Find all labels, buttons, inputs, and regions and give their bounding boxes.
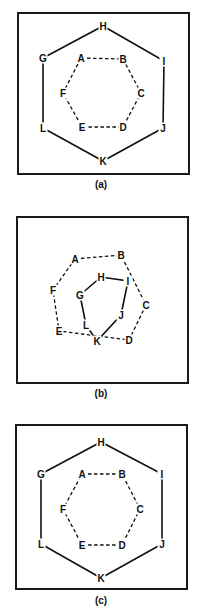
vertex-label-b: B <box>117 250 124 261</box>
vertex-label-d: D <box>125 335 132 346</box>
panel-a: ABCDEFGHIJKL(a) <box>18 13 189 190</box>
panel-b: ABCDEFGHIJKL(b) <box>17 217 188 399</box>
vertex-label-j: J <box>159 539 165 550</box>
panel-caption: (b) <box>95 388 108 399</box>
figure-canvas: ABCDEFGHIJKL(a)ABCDEFGHIJKL(b)ABCDEFGHIJ… <box>0 0 197 608</box>
vertex-label-g: G <box>76 290 84 301</box>
vertex-label-f: F <box>60 504 66 515</box>
vertex-label-h: H <box>97 437 104 448</box>
vertex-label-b: B <box>118 469 125 480</box>
vertex-label-c: C <box>137 88 144 99</box>
vertex-label-b: B <box>119 54 126 65</box>
panel-caption: (a) <box>95 179 107 190</box>
inner-hexagon <box>63 474 140 545</box>
vertex-label-k: K <box>93 336 101 347</box>
vertex-label-l: L <box>40 123 46 134</box>
vertex-label-a: A <box>71 254 78 265</box>
inner-hexagon <box>63 58 141 127</box>
inner-hexagon <box>53 255 146 340</box>
vertex-label-j: J <box>118 310 124 321</box>
vertex-label-f: F <box>60 88 66 99</box>
vertex-label-i: I <box>161 469 164 480</box>
vertex-label-l: L <box>83 320 89 331</box>
panel-frame <box>17 217 188 383</box>
vertex-label-e: E <box>79 540 86 551</box>
panel-c: ABCDEFGHIJKL(c) <box>16 425 187 606</box>
vertex-label-i: I <box>127 276 130 287</box>
vertex-label-h: H <box>97 272 104 283</box>
panel-caption: (c) <box>95 595 107 606</box>
vertex-label-k: K <box>97 573 105 584</box>
vertex-label-g: G <box>37 469 45 480</box>
vertex-label-g: G <box>39 53 47 64</box>
vertex-label-j: J <box>160 123 166 134</box>
vertex-label-c: C <box>142 300 149 311</box>
vertex-label-d: D <box>118 540 125 551</box>
vertex-label-k: K <box>99 156 107 167</box>
vertex-label-e: E <box>56 326 63 337</box>
vertex-label-f: F <box>50 285 56 296</box>
vertex-label-h: H <box>99 21 106 32</box>
vertex-label-c: C <box>136 504 143 515</box>
vertex-label-i: I <box>163 56 166 67</box>
vertex-label-a: A <box>77 53 84 64</box>
vertex-label-e: E <box>79 122 86 133</box>
vertex-label-l: L <box>38 539 44 550</box>
vertex-label-a: A <box>78 469 85 480</box>
vertex-label-d: D <box>119 122 126 133</box>
